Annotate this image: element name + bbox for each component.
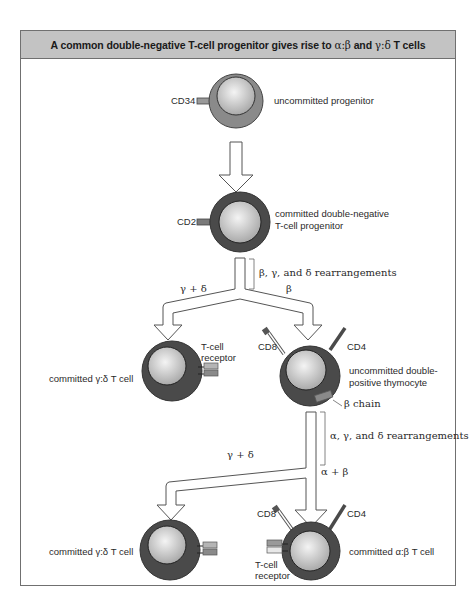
- arrow-down-icon: [219, 142, 253, 192]
- cd8-label-1: CD8: [258, 341, 277, 353]
- cd4-marker-icon: [330, 328, 345, 350]
- tcr-label-2-line2: receptor: [255, 570, 290, 582]
- branch-arrow-2-icon: [157, 412, 327, 527]
- double-positive-cell: [262, 327, 345, 406]
- double-positive-label-1: uncommitted double-: [349, 365, 438, 377]
- branch-2-left-label: γ + δ: [227, 449, 254, 461]
- double-negative-cell: [197, 192, 270, 252]
- bracket-2: [320, 412, 325, 465]
- tcr-label-1-line2: receptor: [201, 352, 236, 364]
- ab-cell-label: committed α:β T cell: [349, 546, 434, 558]
- uncommitted-progenitor-label: uncommitted progenitor: [274, 95, 374, 107]
- branch-2-right-label: α + β: [321, 466, 348, 478]
- gd-cell-2-label: committed γ:δ T cell: [49, 546, 133, 558]
- cd2-marker-icon: [197, 219, 210, 225]
- gd-cell-1-label: committed γ:δ T cell: [49, 373, 133, 385]
- cd2-label: CD2: [177, 216, 196, 228]
- cd4-label-2: CD4: [347, 508, 366, 520]
- cd8-label-2: CD8: [257, 508, 276, 520]
- branch-1-right-label: β: [286, 283, 292, 295]
- rearrangement-1-label: β, γ, and δ rearrangements: [259, 267, 397, 279]
- bracket-1: [249, 259, 254, 289]
- cd4-marker-icon: [328, 505, 345, 532]
- double-positive-label-2: positive thymocyte: [349, 377, 427, 389]
- cd4-label-1: CD4: [347, 341, 366, 353]
- double-negative-label-1: committed double-negative: [275, 208, 389, 220]
- uncommitted-progenitor-cell: [197, 74, 263, 128]
- gd-t-cell-2: [140, 520, 217, 580]
- cd34-label: CD34: [171, 95, 195, 107]
- beta-chain-label: β chain: [344, 398, 381, 410]
- rearrangement-2-label: α, γ, and δ rearrangements: [330, 430, 469, 442]
- lineage-diagram: [0, 0, 470, 616]
- double-negative-label-2: T-cell progenitor: [275, 220, 343, 232]
- branch-1-left-label: γ + δ: [180, 283, 207, 295]
- cd34-marker-icon: [197, 98, 210, 104]
